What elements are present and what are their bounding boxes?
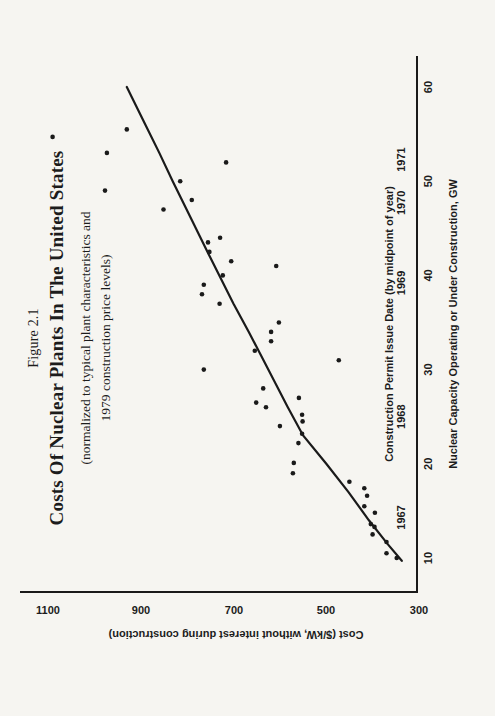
trend-line — [127, 87, 402, 561]
x-tick-label: 60 — [422, 81, 434, 93]
data-point — [178, 179, 183, 184]
x-tick-label: 10 — [422, 552, 434, 564]
y-tick-label: 900 — [132, 604, 150, 616]
data-point — [278, 424, 283, 429]
data-point — [337, 358, 342, 363]
data-point — [217, 301, 222, 306]
x-tick-label: 40 — [422, 269, 434, 281]
data-point — [384, 551, 389, 556]
data-point — [373, 511, 378, 516]
data-point — [200, 292, 205, 297]
year-marker-label: 1971 — [395, 147, 407, 171]
data-point — [206, 240, 211, 245]
data-point — [369, 522, 374, 527]
data-point — [277, 320, 282, 325]
data-point — [103, 188, 108, 193]
rotated-chart-canvas: Figure 2.1 Costs Of Nuclear Plants In Th… — [0, 0, 495, 716]
y-tick-label: 1100 — [36, 604, 60, 616]
data-point — [269, 330, 274, 335]
data-point — [125, 127, 130, 132]
data-point — [224, 160, 229, 165]
data-point — [105, 151, 110, 156]
data-point — [254, 400, 259, 405]
data-point — [300, 412, 305, 417]
data-point — [347, 479, 352, 484]
data-point — [384, 540, 389, 545]
data-point — [218, 235, 223, 240]
x-tick-label: 20 — [422, 458, 434, 470]
data-point — [253, 348, 258, 353]
data-point — [190, 198, 195, 203]
data-point — [50, 135, 55, 140]
data-point — [274, 264, 279, 269]
data-point — [296, 441, 301, 446]
data-point — [372, 525, 377, 530]
data-point — [365, 494, 370, 499]
year-marker-label: 1967 — [395, 505, 407, 529]
year-marker-label: 1968 — [395, 404, 407, 428]
y-tick-label: 300 — [410, 604, 428, 616]
scanned-book-page: Figure 2.1 Costs Of Nuclear Plants In Th… — [0, 0, 495, 716]
data-point — [221, 273, 226, 278]
data-point — [269, 339, 274, 344]
data-point — [300, 419, 305, 424]
data-point — [291, 471, 296, 476]
y-tick-label: 700 — [224, 604, 242, 616]
year-marker-label: 1969 — [395, 271, 407, 295]
x-axis-inner-title: Construction Permit Issue Date (by midpo… — [383, 186, 395, 462]
data-point — [264, 405, 269, 410]
y-axis-title: Cost ($/kW, without interest during cons… — [109, 629, 364, 641]
data-point — [261, 386, 266, 391]
data-point — [161, 207, 166, 212]
data-point — [370, 532, 375, 537]
x-tick-label: 50 — [422, 175, 434, 187]
data-point — [394, 556, 399, 561]
data-point — [229, 259, 234, 264]
data-point — [202, 367, 207, 372]
data-point — [202, 282, 207, 287]
data-point — [362, 504, 367, 509]
data-point — [292, 461, 297, 466]
data-point — [297, 396, 302, 401]
data-point — [207, 250, 212, 255]
year-marker-label: 1970 — [395, 191, 407, 215]
x-axis-title: Nuclear Capacity Operating or Under Cons… — [447, 179, 459, 469]
data-point — [362, 486, 367, 491]
y-tick-label: 500 — [317, 604, 335, 616]
data-point — [300, 431, 305, 436]
x-tick-label: 30 — [422, 363, 434, 375]
